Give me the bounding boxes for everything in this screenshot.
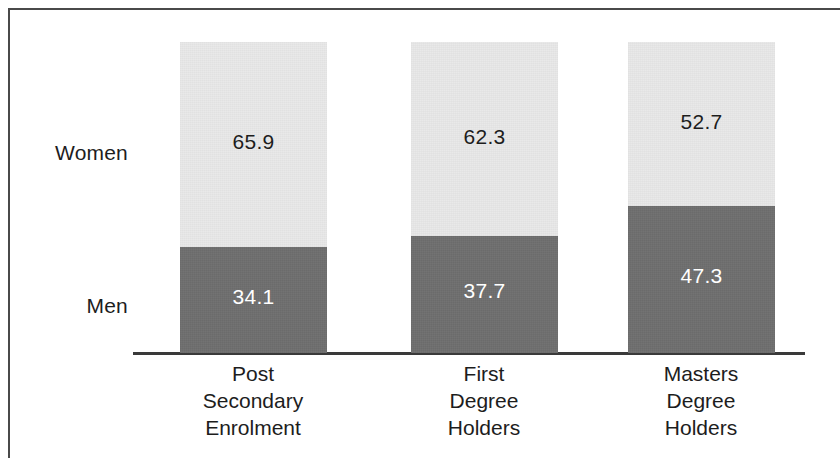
stacked-bar: 52.7 47.3	[628, 42, 775, 353]
bar-segment-men: 47.3	[628, 206, 775, 353]
bar-group: 52.7 47.3	[628, 42, 775, 353]
stacked-bar: 65.9 34.1	[180, 42, 327, 353]
legend-label-men: Men	[20, 294, 128, 318]
bar-group: 62.3 37.7	[411, 42, 558, 353]
bar-value-women: 62.3	[463, 125, 505, 149]
category-label-line: Holders	[591, 414, 811, 441]
category-label-line: Secondary	[143, 387, 363, 414]
category-label-line: Degree	[374, 387, 594, 414]
category-label-line: First	[374, 360, 594, 387]
category-label-line: Degree	[591, 387, 811, 414]
bar-group: 65.9 34.1	[180, 42, 327, 353]
bar-segment-women: 52.7	[628, 42, 775, 206]
category-label-line: Holders	[374, 414, 594, 441]
chart-screenshot: Women Men 65.9 34.1 62.3 37.7	[0, 0, 840, 458]
bar-value-women: 65.9	[232, 130, 274, 154]
category-label: Masters Degree Holders	[591, 360, 811, 441]
bar-value-men: 37.7	[463, 279, 505, 303]
category-label-line: Post	[143, 360, 363, 387]
category-label-line: Masters	[591, 360, 811, 387]
bar-value-men: 34.1	[232, 285, 274, 309]
bar-value-men: 47.3	[680, 264, 722, 288]
bar-segment-men: 34.1	[180, 247, 327, 353]
plot-area: Women Men 65.9 34.1 62.3 37.7	[0, 0, 840, 458]
category-label: Post Secondary Enrolment	[143, 360, 363, 441]
bar-segment-men: 37.7	[411, 236, 558, 353]
category-label: First Degree Holders	[374, 360, 594, 441]
legend-label-women: Women	[20, 141, 128, 165]
category-label-line: Enrolment	[143, 414, 363, 441]
bar-segment-women: 62.3	[411, 42, 558, 236]
stacked-bar: 62.3 37.7	[411, 42, 558, 353]
bar-segment-women: 65.9	[180, 42, 327, 247]
bar-value-women: 52.7	[680, 110, 722, 134]
